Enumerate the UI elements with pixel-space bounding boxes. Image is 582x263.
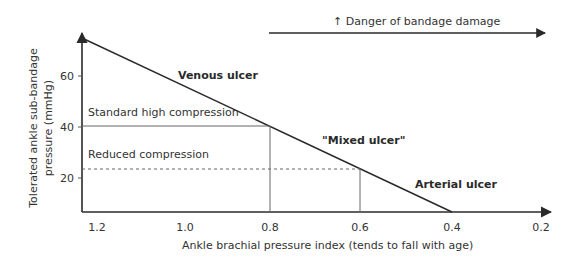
tolerated-pressure-line	[82, 38, 452, 212]
x-tick-label-0.6: 0.6	[351, 222, 369, 233]
y-tick-label-40: 40	[60, 122, 74, 133]
y-tick-label-60: 60	[60, 71, 74, 82]
danger-label: ↑ Danger of bandage damage	[333, 16, 500, 27]
x-tick-label-0.8: 0.8	[261, 222, 279, 233]
x-tick-label-1.0: 1.0	[176, 222, 194, 233]
x-tick-label-0.2: 0.2	[532, 222, 550, 233]
x-tick-label-0.4: 0.4	[443, 222, 461, 233]
y-axis-title: Tolerated ankle sub-bandage pressure (mm…	[26, 48, 56, 207]
reduced-compression-label: Reduced compression	[88, 149, 209, 160]
y-axis-title-line2: pressure (mmHg)	[41, 48, 56, 207]
venous-ulcer-label: Venous ulcer	[178, 70, 258, 81]
y-tick-label-20: 20	[60, 173, 74, 184]
arterial-ulcer-label: Arterial ulcer	[415, 179, 497, 190]
x-axis-title: Ankle brachial pressure index (tends to …	[182, 240, 473, 251]
x-tick-label-1.2: 1.2	[88, 222, 106, 233]
mixed-ulcer-label: "Mixed ulcer"	[322, 135, 405, 146]
standard-compression-label: Standard high compression	[88, 107, 239, 118]
y-axis-title-line1: Tolerated ankle sub-bandage	[26, 48, 41, 207]
